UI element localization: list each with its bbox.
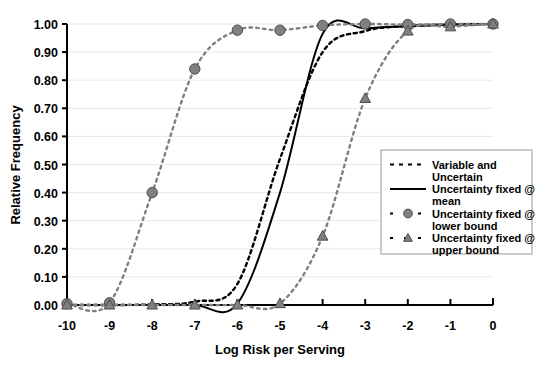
data-point-circle [190, 64, 200, 74]
data-point-circle [360, 19, 370, 29]
y-tick-label: 0.70 [34, 102, 58, 116]
y-tick-label: 1.00 [34, 18, 58, 32]
y-tick-label: 0.50 [34, 159, 58, 173]
legend-label-line2-3: upper bound [432, 244, 499, 256]
legend-label-line2-0: Uncertain [432, 171, 483, 183]
y-axis-title: Relative Frequency [8, 105, 23, 225]
legend-label-line1-2: Uncertainty fixed @ [432, 208, 535, 220]
legend-marker-circle [404, 209, 413, 218]
x-tick-label: -6 [232, 319, 243, 333]
data-point-circle [147, 187, 157, 197]
legend-label-line1-3: Uncertainty fixed @ [432, 232, 535, 244]
legend-label-line1-1: Uncertainty fixed @ [432, 183, 535, 195]
y-tick-label: 0.00 [34, 299, 58, 313]
x-tick-label: -7 [189, 319, 200, 333]
x-tick-label: -1 [445, 319, 456, 333]
y-tick-label: 0.20 [34, 243, 58, 257]
legend-label-line1-0: Variable and [432, 159, 497, 171]
x-tick-label: -5 [274, 319, 285, 333]
x-tick-label: 0 [490, 319, 497, 333]
chart-figure: 0.000.100.200.300.400.500.600.700.800.90… [0, 0, 537, 375]
legend-label-line2-1: mean [432, 195, 461, 207]
y-tick-label: 0.10 [34, 271, 58, 285]
x-tick-label: -3 [360, 319, 371, 333]
x-tick-label: -2 [402, 319, 413, 333]
y-tick-label: 0.60 [34, 130, 58, 144]
x-tick-label: -9 [104, 319, 115, 333]
x-tick-label: -8 [147, 319, 158, 333]
y-tick-label: 0.90 [34, 46, 58, 60]
x-tick-label: -10 [58, 319, 76, 333]
cumulative-distribution-chart: 0.000.100.200.300.400.500.600.700.800.90… [0, 0, 537, 375]
chart-legend[interactable]: Variable andUncertainUncertainty fixed @… [381, 150, 535, 256]
x-tick-label: -4 [317, 319, 328, 333]
data-point-circle [275, 25, 285, 35]
x-axis-title: Log Risk per Serving [215, 342, 345, 357]
y-tick-label: 0.30 [34, 215, 58, 229]
y-tick-label: 0.80 [34, 74, 58, 88]
data-point-circle [317, 20, 327, 30]
data-point-circle [232, 25, 242, 35]
legend-label-line2-2: lower bound [432, 220, 497, 232]
y-tick-label: 0.40 [34, 187, 58, 201]
